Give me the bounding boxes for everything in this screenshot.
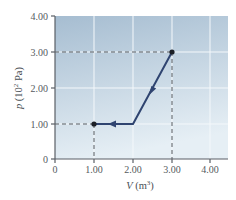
x-tick-label: 3.00 [163, 164, 181, 175]
pv-chart: 4.00 3.00 2.00 1.00 0 0 1.00 2.00 3.00 4… [0, 0, 236, 200]
x-tick-labels: 0 1.00 2.00 3.00 4.00 [53, 164, 219, 175]
y-tick-labels: 4.00 3.00 2.00 1.00 0 [31, 11, 49, 165]
y-tick-label: 2.00 [31, 83, 49, 94]
y-tick-label: 3.00 [31, 47, 49, 58]
x-tick-label: 1.00 [85, 164, 103, 175]
y-axis-title: p (102 Pa) [12, 67, 25, 111]
initial-state-point [169, 49, 174, 54]
x-tick-label: 4.00 [201, 164, 219, 175]
y-tick-label: 0 [43, 154, 48, 165]
y-tick-label: 1.00 [31, 119, 49, 130]
x-tick-label: 2.00 [124, 164, 142, 175]
x-tick-label: 0 [53, 164, 58, 175]
x-axis-title: V (m3) [126, 179, 154, 192]
final-state-point [91, 121, 96, 126]
y-tick-label: 4.00 [31, 11, 49, 22]
